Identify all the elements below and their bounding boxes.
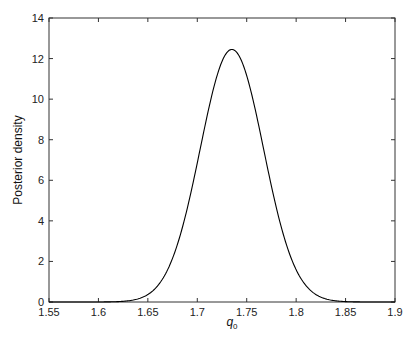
svg-text:1.65: 1.65 (137, 306, 158, 318)
svg-text:10: 10 (32, 93, 44, 105)
y-axis-ticks: 02468101214 (32, 12, 395, 308)
x-axis-ticks: 1.551.61.651.71.751.81.851.9 (38, 18, 402, 318)
svg-text:1.85: 1.85 (335, 306, 356, 318)
svg-text:1.75: 1.75 (236, 306, 257, 318)
svg-text:1.9: 1.9 (387, 306, 402, 318)
y-axis-label: Posterior density (11, 115, 25, 204)
svg-text:1.7: 1.7 (190, 306, 205, 318)
svg-text:12: 12 (32, 53, 44, 65)
svg-text:14: 14 (32, 12, 44, 24)
svg-text:2: 2 (38, 255, 44, 267)
svg-text:1.6: 1.6 (91, 306, 106, 318)
chart: 1.551.61.651.71.751.81.851.9 02468101214… (0, 0, 419, 344)
svg-text:8: 8 (38, 134, 44, 146)
svg-text:0: 0 (38, 296, 44, 308)
svg-text:4: 4 (38, 215, 44, 227)
svg-text:6: 6 (38, 174, 44, 186)
svg-text:1.8: 1.8 (288, 306, 303, 318)
posterior-density-curve (49, 49, 395, 302)
